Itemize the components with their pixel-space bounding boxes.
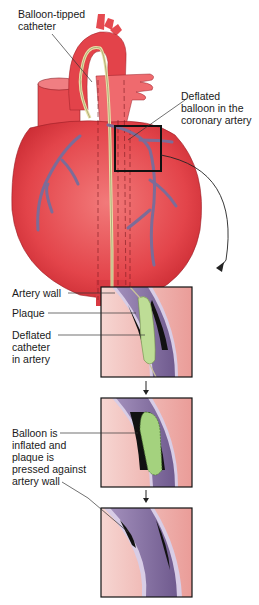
- label-deflated-balloon: Deflated balloon in the coronary artery: [181, 90, 252, 126]
- panel-result: [88, 498, 192, 597]
- label-deflated-catheter: Deflated catheter in artery: [12, 329, 51, 365]
- label-artery-wall: Artery wall: [12, 287, 61, 299]
- label-balloon-tipped-catheter: Balloon-tipped catheter: [18, 8, 85, 32]
- label-plaque: Plaque: [12, 307, 45, 319]
- panel-deflated: [48, 287, 192, 377]
- label-balloon-inflated: Balloon is inflated and plaque is presse…: [12, 427, 86, 487]
- heart-illustration: [12, 14, 228, 306]
